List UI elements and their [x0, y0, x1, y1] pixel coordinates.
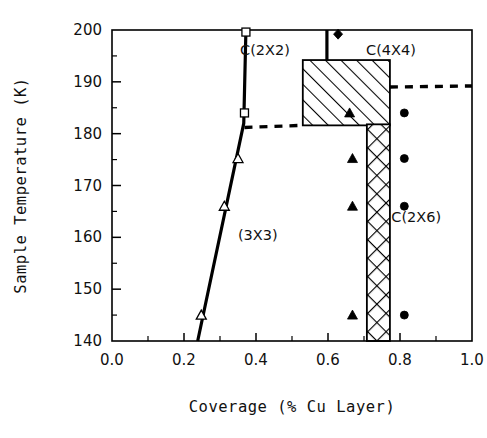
data-point-open-triangle: [233, 154, 243, 163]
axes-frame: [112, 30, 472, 341]
x-axis-tick-label: 0.6: [316, 351, 340, 369]
data-point-filled-triangle: [347, 201, 357, 210]
crosshatched-region-c2x6: [367, 124, 390, 341]
y-axis-title: Sample Temperature (K): [12, 77, 30, 293]
y-axis-tick-label: 160: [73, 228, 102, 246]
data-point-filled-triangle: [347, 310, 357, 319]
data-point-filled-circle: [400, 109, 408, 117]
y-axis-tick-label: 140: [73, 332, 102, 350]
phase-regions: [303, 60, 390, 341]
x-axis-tick-label: 0.2: [172, 351, 196, 369]
y-axis-tick-label: 200: [73, 21, 102, 39]
phase-label-3x3: (3X3): [238, 227, 278, 243]
x-axis-tick-label: 0.8: [388, 351, 412, 369]
axis-tick-labels: 0.00.20.40.60.81.0140150160170180190200: [73, 21, 484, 369]
phase-diagram-figure: 0.00.20.40.60.81.0140150160170180190200 …: [0, 0, 487, 438]
x-axis-title: Coverage (% Cu Layer): [189, 398, 395, 416]
x-axis-tick-label: 0.4: [244, 351, 268, 369]
y-axis-tick-label: 170: [73, 177, 102, 195]
data-point-open-square: [242, 28, 250, 36]
data-point-filled-circle: [400, 155, 408, 163]
phase-label-c2x2: C(2X2): [240, 42, 290, 58]
plot-frame: [112, 30, 472, 341]
y-axis-tick-label: 180: [73, 125, 102, 143]
data-point-open-square: [240, 109, 248, 117]
data-point-filled-circle: [400, 311, 408, 319]
data-point-filled-triangle: [347, 154, 357, 163]
y-axis-tick-label: 150: [73, 280, 102, 298]
phase-label-c2x6: C(2X6): [391, 209, 441, 225]
phase-label-c4x4: C(4X4): [366, 42, 416, 58]
plot-canvas: 0.00.20.40.60.81.0140150160170180190200 …: [0, 0, 487, 438]
x-axis-tick-label: 0.0: [100, 351, 124, 369]
left-phase-boundary-solid: [198, 30, 246, 341]
y-axis-tick-label: 190: [73, 73, 102, 91]
lower-left-boundary-dashed: [244, 125, 302, 127]
upper-right-boundary-dashed: [390, 86, 472, 87]
x-axis-tick-label: 1.0: [460, 351, 484, 369]
